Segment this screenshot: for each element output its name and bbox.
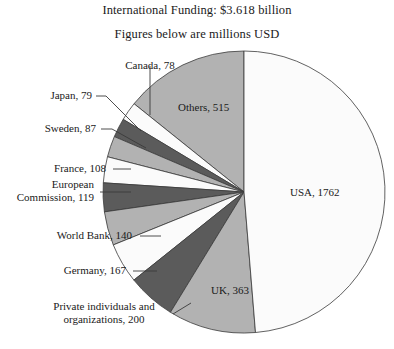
slice-label-usa: USA, 1762 [290, 186, 340, 198]
slice-label-japan: Japan, 79 [12, 89, 92, 102]
slice-label-private-individuals-line1: Private individuals and [42, 300, 166, 313]
slice-label-germany: Germany, 167 [28, 264, 126, 277]
slice-label-others: Others, 515 [178, 101, 229, 113]
slice-label-european-commission: European Commission, 119 [2, 178, 94, 204]
slice-label-canada: Canada, 78 [110, 59, 190, 72]
slice-label-sweden: Sweden, 87 [12, 122, 96, 135]
slice-label-uk: UK, 363 [211, 284, 249, 296]
slice-label-world-bank: World Bank, 140 [18, 229, 132, 242]
slice-label-european-commission-line2: Commission, 119 [2, 191, 94, 204]
slice-label-european-commission-line1: European [2, 178, 94, 191]
slice-label-private-individuals: Private individuals and organizations, 2… [42, 300, 166, 326]
chart-figure: International Funding: $3.618 billion Fi… [0, 0, 394, 349]
slice-label-private-individuals-line2: organizations, 200 [42, 313, 166, 326]
slice-label-france: France, 108 [10, 162, 106, 175]
